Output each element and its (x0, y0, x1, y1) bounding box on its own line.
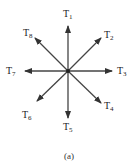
vector-arrow-t8 (35, 38, 68, 71)
vector-arrow-t6 (37, 71, 68, 101)
vector-label-t5: T5 (63, 122, 73, 134)
vector-label-t4: T4 (104, 101, 114, 113)
vector-arrow-t2 (68, 38, 101, 71)
figure-caption: (a) (0, 151, 133, 161)
vector-arrow-t4 (68, 71, 101, 103)
vector-diagram (0, 0, 133, 165)
vector-label-t1: T1 (63, 9, 73, 21)
vector-label-t2: T2 (104, 30, 114, 42)
vector-label-t7: T7 (6, 66, 16, 78)
vector-label-t3: T3 (117, 66, 127, 78)
center-point (66, 69, 70, 73)
vector-label-t6: T6 (22, 110, 32, 122)
vector-label-t8: T8 (23, 28, 33, 40)
